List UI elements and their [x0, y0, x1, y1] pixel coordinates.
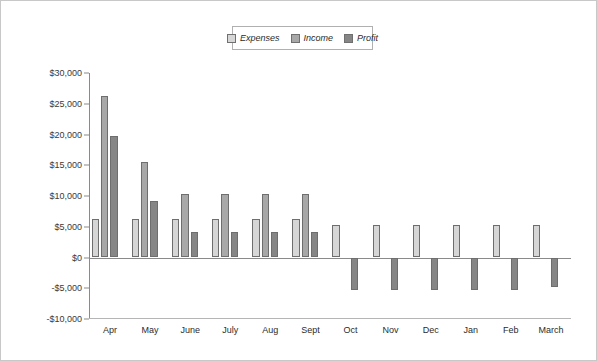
legend-entry-profit[interactable]: Profit: [344, 34, 378, 43]
bar-group: [250, 73, 290, 319]
bar-expenses[interactable]: [533, 225, 540, 258]
legend-swatch-icon: [227, 34, 236, 43]
bar-profit[interactable]: [551, 258, 558, 288]
bar-group: [371, 73, 411, 319]
bar-group: [210, 73, 250, 319]
x-axis-tick-label: Feb: [491, 325, 531, 335]
x-axis-tick-label: Apr: [90, 325, 130, 335]
bar-income[interactable]: [141, 162, 148, 258]
bar-expenses[interactable]: [92, 219, 99, 258]
bar-group: [290, 73, 330, 319]
bar-expenses[interactable]: [493, 225, 500, 258]
bar-profit[interactable]: [391, 258, 398, 291]
bar-group: [491, 73, 531, 319]
y-axis-tick-mark: [84, 319, 89, 320]
bar-income[interactable]: [101, 96, 108, 257]
bar-income[interactable]: [221, 194, 228, 258]
x-axis-tick-label: July: [210, 325, 250, 335]
y-axis-tick-label: -$10,000: [46, 314, 82, 324]
y-axis-tick-mark: [84, 165, 89, 166]
y-axis-tick-label: $20,000: [49, 130, 82, 140]
bar-profit[interactable]: [150, 201, 157, 258]
bar-expenses[interactable]: [212, 219, 219, 258]
bar-chart-figure: ExpensesIncomeProfit $30,000$25,000$20,0…: [0, 0, 597, 361]
bar-income[interactable]: [181, 194, 188, 258]
bar-income[interactable]: [302, 194, 309, 258]
plot-area: $30,000$25,000$20,000$15,000$10,000$5,00…: [89, 73, 571, 319]
x-axis-tick-label: Dec: [411, 325, 451, 335]
bar-profit[interactable]: [431, 258, 438, 291]
x-axis-tick-label: Oct: [330, 325, 370, 335]
y-axis-tick-label: $0: [72, 253, 82, 263]
bar-expenses[interactable]: [292, 219, 299, 258]
legend-swatch-icon: [291, 34, 300, 43]
y-axis-tick-label: $25,000: [49, 99, 82, 109]
x-axis-tick-label: Sept: [290, 325, 330, 335]
legend-label: Profit: [357, 34, 378, 43]
chart-legend: ExpensesIncomeProfit: [232, 26, 373, 50]
bar-profit[interactable]: [271, 232, 278, 258]
y-axis-tick-mark: [84, 288, 89, 289]
bar-profit[interactable]: [351, 258, 358, 291]
y-axis-tick-label: $10,000: [49, 191, 82, 201]
y-axis-tick-mark: [84, 73, 89, 74]
bar-expenses[interactable]: [453, 225, 460, 258]
bar-expenses[interactable]: [332, 225, 339, 258]
bar-expenses[interactable]: [252, 219, 259, 258]
bar-profit[interactable]: [471, 258, 478, 291]
bar-group: [531, 73, 571, 319]
legend-swatch-icon: [344, 34, 353, 43]
y-axis-tick-mark: [84, 103, 89, 104]
bar-expenses[interactable]: [373, 225, 380, 258]
bar-group: [170, 73, 210, 319]
bar-expenses[interactable]: [132, 219, 139, 258]
x-axis-tick-label: June: [170, 325, 210, 335]
legend-entry-expenses[interactable]: Expenses: [227, 34, 280, 43]
bar-groups: [90, 73, 571, 319]
bar-profit[interactable]: [231, 232, 238, 258]
x-axis-ticks: AprMayJuneJulyAugSeptOctNovDecJanFebMarc…: [90, 325, 571, 335]
bar-group: [330, 73, 370, 319]
bar-expenses[interactable]: [172, 219, 179, 258]
bar-group: [411, 73, 451, 319]
bar-profit[interactable]: [311, 232, 318, 258]
y-axis-tick-label: $5,000: [54, 222, 82, 232]
bar-profit[interactable]: [511, 258, 518, 291]
x-axis-tick-label: Aug: [250, 325, 290, 335]
legend-entry-income[interactable]: Income: [291, 34, 334, 43]
bar-group: [451, 73, 491, 319]
bar-group: [90, 73, 130, 319]
bar-group: [130, 73, 170, 319]
y-axis-tick-mark: [84, 226, 89, 227]
y-axis-tick-label: -$5,000: [51, 283, 82, 293]
y-axis-tick-mark: [84, 196, 89, 197]
legend-label: Income: [304, 34, 334, 43]
y-axis-tick-mark: [84, 257, 89, 258]
y-axis-tick-label: $15,000: [49, 160, 82, 170]
bar-profit[interactable]: [110, 136, 117, 257]
y-axis-tick-label: $30,000: [49, 68, 82, 78]
legend-label: Expenses: [240, 34, 280, 43]
y-axis-tick-mark: [84, 134, 89, 135]
bar-income[interactable]: [262, 194, 269, 258]
bar-profit[interactable]: [191, 232, 198, 258]
x-axis-tick-label: March: [531, 325, 571, 335]
x-axis-tick-label: Nov: [371, 325, 411, 335]
x-axis-tick-label: Jan: [451, 325, 491, 335]
x-axis-tick-label: May: [130, 325, 170, 335]
bar-expenses[interactable]: [413, 225, 420, 258]
